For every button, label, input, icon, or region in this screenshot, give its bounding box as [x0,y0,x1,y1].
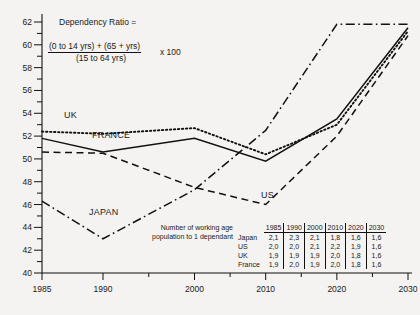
data-table-wrap: 198519902000201020202030Japan2,12,32,11,… [236,223,386,269]
y-axis-tick-label: 42 [12,245,32,255]
y-axis-tick-label: 46 [12,200,32,210]
table-header-row: 198519902000201020202030 [236,223,386,233]
table-cell: 1,6 [346,233,367,243]
series-label-us: US [261,190,274,200]
y-axis-tick-label: 62 [12,17,32,27]
table-cell: 2,2 [325,242,346,251]
table-cell: 2,0 [325,251,346,260]
y-axis-tick-label: 58 [12,63,32,73]
y-axis-tick-label: 48 [12,177,32,187]
table-row: France1,92,01,92,01,81,6 [236,260,386,269]
table-cell: 2,0 [284,260,305,269]
series-label-japan: JAPAN [89,207,118,217]
y-axis-tick-label: 52 [12,131,32,141]
table-column-header: 2020 [346,223,367,233]
table-cell: 1,8 [346,251,367,260]
y-axis-tick-label: 54 [12,108,32,118]
formula-denominator: (15 to 64 yrs) [48,53,154,63]
x-axis-tick-label: 2030 [388,284,420,294]
table-cell: 1,6 [366,251,386,260]
table-cell: 1,9 [304,260,325,269]
y-axis-tick-label: 40 [12,268,32,278]
table-cell: 1,9 [264,260,284,269]
x-axis-tick-label: 2010 [246,284,286,294]
series-label-uk: UK [64,110,77,120]
series-label-france: FRANCE [92,130,130,140]
formula-title: Dependency Ratio = [59,17,136,27]
table-cell: 1,6 [366,260,386,269]
table-cell: 2,0 [284,242,305,251]
table-cell: 2,1 [304,242,325,251]
formula-numerator: (0 to 14 yrs) + (65 + yrs) [48,41,141,53]
table-cell: 1,9 [346,242,367,251]
table-cell: 2,0 [325,260,346,269]
table-column-header: 2000 [304,223,325,233]
table-cell: 1,9 [264,251,284,260]
x-axis-tick-label: 1985 [22,284,62,294]
table-caption: Number of working agepopulation to 1 dep… [150,224,233,242]
table-row-label: UK [236,251,264,260]
table-corner-cell [236,223,264,233]
table-caption-line1: Number of working age [161,224,233,231]
table-row: Japan2,12,32,11,81,61,6 [236,233,386,243]
table-row-label: US [236,242,264,251]
y-axis-tick-label: 44 [12,222,32,232]
formula-multiplier: x 100 [160,47,181,57]
data-table: 198519902000201020202030Japan2,12,32,11,… [236,223,386,269]
table-cell: 2,3 [284,233,305,243]
table-cell: 1,8 [346,260,367,269]
table-row: UK1,91,91,92,01,81,6 [236,251,386,260]
table-cell: 2,1 [264,233,284,243]
table-row-label: Japan [236,233,264,243]
table-column-header: 2030 [366,223,386,233]
table-cell: 2,1 [304,233,325,243]
table-cell: 1,8 [325,233,346,243]
table-cell: 1,6 [366,242,386,251]
y-axis-tick-label: 50 [12,154,32,164]
x-axis-tick-label: 2000 [175,284,215,294]
x-axis-tick-label: 2020 [317,284,357,294]
table-cell: 2,0 [264,242,284,251]
table-cell: 1,9 [284,251,305,260]
table-caption-line2: population to 1 dependant [152,233,233,240]
y-axis-tick-label: 56 [12,85,32,95]
table-row: US2,02,02,12,21,91,6 [236,242,386,251]
table-column-header: 1990 [284,223,305,233]
table-cell: 1,9 [304,251,325,260]
table-cell: 1,6 [366,233,386,243]
y-axis-tick-label: 60 [12,40,32,50]
table-column-header: 2010 [325,223,346,233]
x-axis-tick-label: 1990 [83,284,123,294]
table-row-label: France [236,260,264,269]
chart-figure: Dependency Ratio = (0 to 14 yrs) + (65 +… [0,0,420,315]
table-column-header: 1985 [264,223,284,233]
